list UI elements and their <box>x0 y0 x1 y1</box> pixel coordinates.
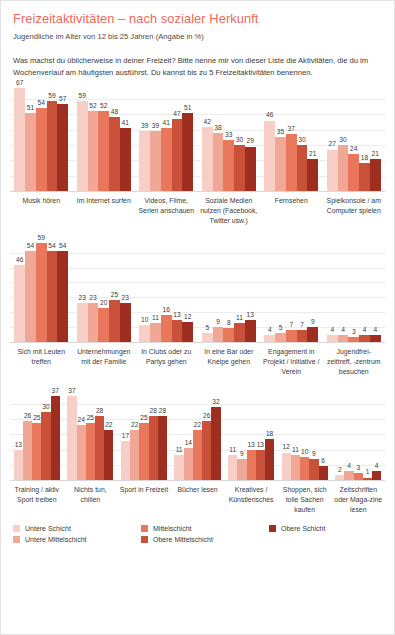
bar[interactable]: 12 <box>182 322 193 342</box>
bar[interactable]: 30 <box>338 145 349 191</box>
bar[interactable]: 11 <box>174 455 183 480</box>
bar[interactable]: 9 <box>237 459 246 479</box>
legend-item[interactable]: Untere Mittelschicht <box>13 536 141 543</box>
bar[interactable]: 5 <box>275 333 286 341</box>
bar[interactable]: 59 <box>77 101 88 191</box>
bar[interactable]: 47 <box>172 119 183 191</box>
bar[interactable]: 10 <box>300 457 309 480</box>
bar[interactable]: 9 <box>309 459 318 479</box>
bar[interactable]: 6 <box>319 466 328 480</box>
bar[interactable]: 2 <box>335 475 344 480</box>
bar[interactable]: 52 <box>88 111 99 190</box>
bar[interactable]: 39 <box>150 131 161 191</box>
bar[interactable]: 42 <box>202 127 213 191</box>
bar[interactable]: 11 <box>228 455 237 480</box>
bar[interactable]: 23 <box>77 303 88 342</box>
bar[interactable]: 25 <box>86 423 95 480</box>
bar[interactable]: 9 <box>213 327 224 342</box>
bar[interactable]: 29 <box>245 147 256 191</box>
bar[interactable]: 23 <box>120 303 131 342</box>
bar[interactable]: 41 <box>161 128 172 191</box>
bar[interactable]: 11 <box>150 323 161 341</box>
bar[interactable]: 4 <box>264 335 275 342</box>
bar[interactable]: 4 <box>344 471 353 480</box>
bar[interactable]: 54 <box>25 251 36 342</box>
bar[interactable]: 51 <box>182 113 193 191</box>
bar[interactable]: 27 <box>327 150 338 191</box>
bar[interactable]: 7 <box>286 330 297 342</box>
bar[interactable]: 46 <box>264 121 275 191</box>
bar[interactable]: 48 <box>109 117 120 190</box>
bar[interactable]: 4 <box>327 335 338 342</box>
bar[interactable]: 18 <box>359 163 370 191</box>
bar[interactable]: 59 <box>47 101 58 191</box>
bar[interactable]: 9 <box>307 327 318 342</box>
bar[interactable]: 13 <box>14 450 23 480</box>
bar[interactable]: 5 <box>202 333 213 341</box>
legend-item[interactable]: Mittelschicht <box>141 525 269 532</box>
bar[interactable]: 10 <box>139 325 150 342</box>
bar[interactable]: 12 <box>282 453 291 480</box>
bar[interactable]: 67 <box>14 88 25 190</box>
bar[interactable]: 14 <box>184 448 193 480</box>
bar[interactable]: 57 <box>57 104 68 191</box>
bar[interactable]: 59 <box>36 243 47 342</box>
bar[interactable]: 8 <box>223 328 234 341</box>
bar[interactable]: 1 <box>363 478 372 480</box>
bar[interactable]: 4 <box>370 335 381 342</box>
bar[interactable]: 23 <box>88 303 99 342</box>
bar[interactable]: 28 <box>95 416 104 480</box>
bar[interactable]: 11 <box>291 455 300 480</box>
bar[interactable]: 28 <box>149 416 158 480</box>
bar[interactable]: 22 <box>104 430 113 480</box>
bar[interactable]: 37 <box>286 134 297 191</box>
bar[interactable]: 11 <box>234 323 245 341</box>
bar[interactable]: 51 <box>25 113 36 191</box>
bar[interactable]: 38 <box>213 133 224 191</box>
bar[interactable]: 4 <box>372 471 381 480</box>
bar[interactable]: 26 <box>23 421 32 480</box>
bar[interactable]: 22 <box>130 430 139 480</box>
bar[interactable]: 3 <box>348 337 359 342</box>
bar[interactable]: 7 <box>297 330 308 342</box>
bar[interactable]: 41 <box>120 128 131 191</box>
bar[interactable]: 26 <box>202 421 211 480</box>
bar[interactable]: 33 <box>223 140 234 190</box>
bar[interactable]: 52 <box>98 111 109 190</box>
bar[interactable]: 21 <box>370 159 381 191</box>
bar[interactable]: 24 <box>348 154 359 191</box>
bar[interactable]: 13 <box>245 320 256 342</box>
bar[interactable]: 18 <box>265 439 274 480</box>
bar[interactable]: 25 <box>32 423 41 480</box>
legend-item[interactable]: Obere Mittelschicht <box>141 536 269 543</box>
bar[interactable]: 4 <box>338 335 349 342</box>
bar[interactable]: 37 <box>67 396 76 480</box>
bar[interactable]: 39 <box>139 131 150 191</box>
bar[interactable]: 54 <box>57 251 68 342</box>
bar[interactable]: 22 <box>193 430 202 480</box>
bar[interactable]: 28 <box>158 416 167 480</box>
bar[interactable]: 16 <box>161 315 172 342</box>
bar[interactable]: 30 <box>234 145 245 191</box>
bar[interactable]: 21 <box>307 159 318 191</box>
bar[interactable]: 25 <box>139 423 148 480</box>
bar[interactable]: 54 <box>36 108 47 191</box>
bar[interactable]: 24 <box>77 425 86 480</box>
bar[interactable]: 54 <box>47 251 58 342</box>
bar[interactable]: 20 <box>98 308 109 342</box>
legend-item[interactable]: Untere Schicht <box>13 525 141 532</box>
bar[interactable]: 13 <box>247 450 256 480</box>
bar[interactable]: 37 <box>51 396 60 480</box>
bar[interactable]: 4 <box>359 335 370 342</box>
bar[interactable]: 13 <box>172 320 183 342</box>
legend-item[interactable]: Obere Schicht <box>269 525 369 532</box>
bar[interactable]: 35 <box>275 137 286 191</box>
bar[interactable]: 25 <box>109 300 120 342</box>
bar[interactable]: 3 <box>354 473 363 480</box>
bar[interactable]: 46 <box>14 265 25 342</box>
bar[interactable]: 13 <box>256 450 265 480</box>
bar[interactable]: 30 <box>297 145 308 191</box>
bar[interactable]: 32 <box>211 407 220 480</box>
bar[interactable]: 17 <box>121 441 130 480</box>
bar[interactable]: 30 <box>41 412 50 480</box>
